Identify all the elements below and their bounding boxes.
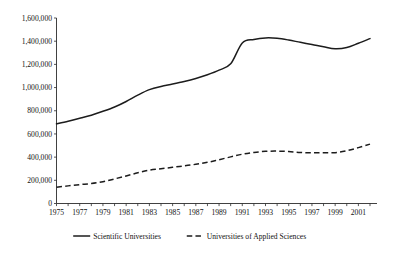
y-axis-tick-label: 1,200,000 — [22, 60, 53, 69]
legend-item-label: Scientific Universities — [93, 232, 161, 241]
x-axis-tick-label: 1991 — [235, 208, 250, 217]
x-axis-tick-label: 1989 — [211, 208, 226, 217]
legend-item-label: Universities of Applied Sciences — [207, 232, 306, 241]
x-axis-tick-label: 1995 — [281, 208, 296, 217]
x-axis-tick-label: 1981 — [119, 208, 134, 217]
x-axis-tick-label: 1993 — [258, 208, 273, 217]
x-axis-tick-label: 1983 — [142, 208, 157, 217]
x-axis-tick-label: 1999 — [328, 208, 343, 217]
x-axis-tick-label: 1997 — [304, 208, 319, 217]
y-axis-tick-label: 200,000 — [27, 176, 52, 185]
x-axis-tick-label: 1977 — [72, 208, 87, 217]
x-axis-tick-label: 1987 — [188, 208, 203, 217]
series-line-scientific-universities — [57, 38, 371, 124]
y-axis-tick-label: 0 — [48, 199, 52, 208]
y-axis-tick-label: 1,400,000 — [22, 37, 53, 46]
chart-legend: Scientific UniversitiesUniversities of A… — [73, 232, 306, 241]
y-axis-tick-label: 1,000,000 — [22, 83, 53, 92]
series-line-universities-of-applied-sciences — [57, 144, 371, 187]
x-axis-tick-labels: 1975197719791981198319851987198919911993… — [49, 208, 366, 217]
x-axis-tick-label: 2001 — [351, 208, 366, 217]
chart-canvas: 0200,000400,000600,000800,0001,000,0001,… — [0, 0, 401, 256]
x-axis-tick-label: 1979 — [95, 208, 110, 217]
y-axis-tick-label: 600,000 — [27, 130, 52, 139]
y-axis-tick-label: 1,600,000 — [22, 14, 53, 23]
x-axis-tick-label: 1985 — [165, 208, 180, 217]
y-axis-tick-label: 400,000 — [27, 153, 52, 162]
y-axis-tick-label: 800,000 — [27, 106, 52, 115]
line-chart: 0200,000400,000600,000800,0001,000,0001,… — [0, 0, 401, 256]
x-axis-tick-label: 1975 — [49, 208, 64, 217]
y-axis-tick-labels: 0200,000400,000600,000800,0001,000,0001,… — [22, 14, 53, 209]
